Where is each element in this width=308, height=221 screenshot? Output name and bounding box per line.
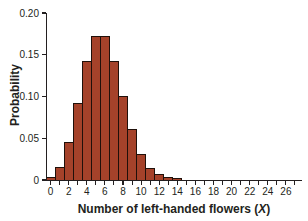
x-tick-22 <box>249 181 250 185</box>
y-tick-label-0: 0 <box>13 175 39 186</box>
x-tick-11 <box>150 181 151 185</box>
x-tick-label-26: 26 <box>276 186 296 197</box>
x-tick-label-18: 18 <box>204 186 224 197</box>
x-tick-label-6: 6 <box>95 186 115 197</box>
x-tick-label-0: 0 <box>41 186 61 197</box>
y-axis-line <box>46 13 47 181</box>
y-tick-label-0.05: 0.05 <box>13 133 39 144</box>
x-tick-13 <box>168 181 169 185</box>
x-tick-24 <box>267 181 268 185</box>
x-tick-26 <box>285 181 286 185</box>
x-tick-label-20: 20 <box>222 186 242 197</box>
x-tick-4 <box>86 181 87 185</box>
x-axis-title-suffix: ) <box>266 202 270 216</box>
x-tick-9 <box>132 181 133 185</box>
x-tick-2 <box>68 181 69 185</box>
x-tick-1 <box>59 181 60 185</box>
x-tick-label-10: 10 <box>131 186 151 197</box>
x-tick-8 <box>122 181 123 185</box>
x-tick-label-16: 16 <box>185 186 205 197</box>
x-tick-15 <box>186 181 187 185</box>
x-tick-label-22: 22 <box>240 186 260 197</box>
x-tick-6 <box>104 181 105 185</box>
x-axis-title: Number of left-handed flowers (X) <box>78 202 271 216</box>
x-tick-18 <box>213 181 214 185</box>
x-axis-line <box>46 180 302 181</box>
x-tick-27 <box>294 181 295 185</box>
x-tick-label-12: 12 <box>149 186 169 197</box>
x-tick-21 <box>240 181 241 185</box>
x-tick-19 <box>222 181 223 185</box>
x-tick-23 <box>258 181 259 185</box>
x-tick-label-24: 24 <box>258 186 278 197</box>
probability-histogram-figure: Probability Number of left-handed flower… <box>0 0 308 221</box>
x-tick-3 <box>77 181 78 185</box>
x-tick-label-8: 8 <box>113 186 133 197</box>
x-tick-label-2: 2 <box>59 186 79 197</box>
x-tick-12 <box>159 181 160 185</box>
x-tick-label-14: 14 <box>167 186 187 197</box>
x-tick-5 <box>95 181 96 185</box>
x-tick-25 <box>276 181 277 185</box>
x-tick-14 <box>177 181 178 185</box>
y-tick-label-0.10: 0.10 <box>13 91 39 102</box>
x-axis-title-text: Number of left-handed flowers ( <box>78 202 259 216</box>
y-tick-label-0.20: 0.20 <box>13 8 39 19</box>
y-tick-label-0.15: 0.15 <box>13 49 39 60</box>
x-tick-16 <box>195 181 196 185</box>
x-tick-label-4: 4 <box>77 186 97 197</box>
x-tick-10 <box>141 181 142 185</box>
x-tick-17 <box>204 181 205 185</box>
x-tick-7 <box>113 181 114 185</box>
x-axis-title-variable: X <box>258 202 266 216</box>
x-tick-0 <box>50 181 51 185</box>
x-tick-20 <box>231 181 232 185</box>
